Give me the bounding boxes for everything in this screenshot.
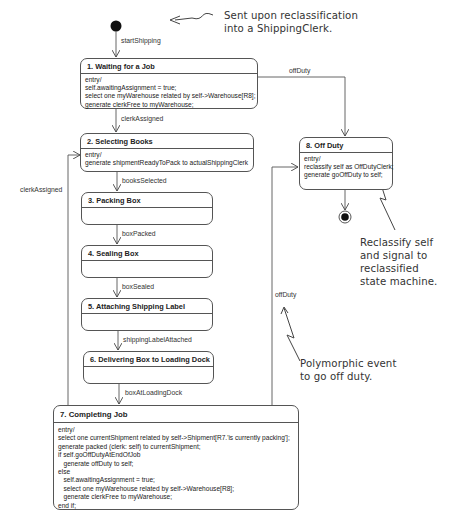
initial-state-icon — [111, 21, 122, 32]
state-title: 3. Packing Box — [82, 193, 212, 208]
state-selecting-books: 2. Selecting Books entry/ generate shipm… — [80, 133, 254, 172]
state-title: 1. Waiting for a Job — [81, 59, 257, 74]
annotation-arrow-icon — [175, 13, 213, 20]
annotation-arrow-icon — [284, 308, 300, 361]
state-attaching-shipping-label: 5. Attaching Shipping Label — [81, 298, 213, 331]
state-title: 6. Delivering Box to Loading Dock — [84, 352, 213, 367]
transition-label-clerk-assigned: clerkAssigned — [121, 115, 163, 122]
transition-label-books-selected: booksSelected — [122, 177, 167, 184]
state-entry-action: entry/ self.awaitingAssignment = true; s… — [81, 74, 257, 111]
annotation-reclassify-self: Reclassify self and signal to reclassifi… — [360, 236, 437, 288]
transition-label-shipping-label-attached: shippingLabelAttached — [123, 336, 192, 343]
state-entry-action: entry/ generate shipmentReadyToPack to a… — [81, 149, 253, 169]
transition-label-off-duty-1: offDuty — [289, 67, 310, 74]
state-waiting-for-job: 1. Waiting for a Job entry/ self.awaitin… — [80, 58, 258, 109]
state-entry-action: entry/ reclassify self as OffDutyClerk; … — [300, 153, 392, 182]
state-delivering-box: 6. Delivering Box to Loading Dock — [83, 351, 214, 384]
transition-label-clerk-assigned-loop: clerkAssigned — [20, 186, 62, 193]
state-sealing-box: 4. Sealing Box — [81, 245, 213, 278]
transition-label-box-packed: boxPacked — [122, 230, 156, 237]
state-completing-job: 7. Completing Job entry/ select one curr… — [53, 405, 299, 510]
state-title: 5. Attaching Shipping Label — [82, 299, 212, 314]
state-title: 8. Off Duty — [300, 138, 392, 153]
annotation-polymorphic-event: Polymorphic event to go off duty. — [300, 357, 397, 383]
transition-label-box-at-loading-dock: boxAtLoadingDock — [125, 389, 182, 396]
state-off-duty: 8. Off Duty entry/ reclassify self as Of… — [299, 137, 393, 190]
state-entry-action: entry/ select one currentShipment relate… — [54, 423, 298, 512]
annotation-reclassification: Sent upon reclassification into a Shippi… — [224, 9, 358, 35]
transition-label-off-duty-7: offDuty — [275, 291, 296, 298]
state-title: 2. Selecting Books — [81, 134, 253, 149]
state-packing-box: 3. Packing Box — [81, 192, 213, 225]
state-title: 7. Completing Job — [54, 406, 298, 423]
transition-label-start-shipping: startShipping — [121, 37, 161, 44]
transition-label-box-sealed: boxSealed — [122, 283, 154, 290]
state-title: 4. Sealing Box — [82, 246, 212, 261]
